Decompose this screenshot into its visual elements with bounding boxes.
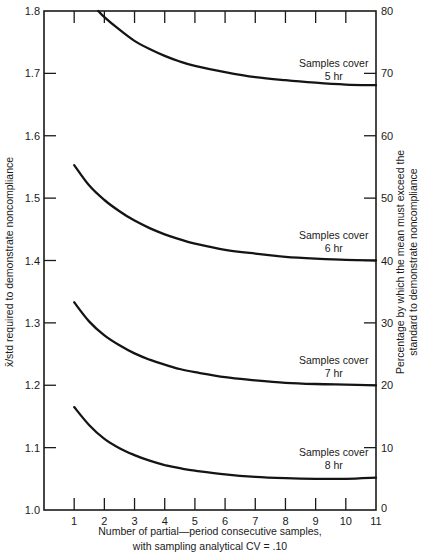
curve-labels: Samples cover5 hrSamples cover6 hrSample… xyxy=(299,57,369,471)
curve-label: Samples cover xyxy=(299,446,369,458)
curve-label-hours: 8 hr xyxy=(325,459,344,471)
curve-label-hours: 5 hr xyxy=(325,70,344,82)
y-right-tick-label: 60 xyxy=(381,130,393,142)
plot-frame xyxy=(44,11,376,510)
y-axis-right-label-line2: standard to demonstrate noncompliance xyxy=(407,168,419,356)
curve-label: Samples cover xyxy=(299,354,369,366)
y-right-tick-label: 10 xyxy=(381,442,393,454)
y-tick-label: 1.0 xyxy=(25,504,40,516)
y-right-tick-label: 80 xyxy=(381,5,393,17)
y-right-tick-label: 0 xyxy=(381,502,387,514)
y-right-tick-label: 20 xyxy=(381,379,393,391)
y-tick-label: 1.3 xyxy=(25,317,40,329)
y-tick-label: 1.8 xyxy=(25,5,40,17)
y-tick-label: 1.5 xyxy=(25,192,40,204)
y-right-tick-label: 50 xyxy=(381,192,393,204)
x-tick-label: 1 xyxy=(71,515,77,527)
curve-label-hours: 7 hr xyxy=(325,367,344,379)
y-tick-label: 1.4 xyxy=(25,255,40,267)
x-axis-label: Number of partial—period consecutive sam… xyxy=(98,525,322,537)
y-axis-left-ticks: 1.01.11.21.31.41.51.61.71.8 xyxy=(25,5,56,516)
curve-label: Samples cover xyxy=(299,57,369,69)
y-right-tick-label: 40 xyxy=(381,255,393,267)
y-axis-left-label: x̄/std required to demonstrate noncompli… xyxy=(3,157,15,367)
y-right-tick-label: 70 xyxy=(381,67,393,79)
x-tick-label: 11 xyxy=(370,515,381,527)
y-tick-label: 1.7 xyxy=(25,67,40,79)
y-tick-label: 1.1 xyxy=(25,442,40,454)
curve-label-hours: 6 hr xyxy=(325,242,344,254)
y-right-tick-label: 30 xyxy=(381,317,393,329)
chart: 1234567891011 1.01.11.21.31.41.51.61.71.… xyxy=(0,0,427,560)
y-axis-right-label: Percentage by which the mean must exceed… xyxy=(394,150,406,374)
curve-label: Samples cover xyxy=(299,229,369,241)
y-tick-label: 1.6 xyxy=(25,130,40,142)
y-tick-label: 1.2 xyxy=(25,379,40,391)
x-axis-label-line2: with sampling analytical CV = .10 xyxy=(132,540,288,552)
x-tick-label: 10 xyxy=(340,515,352,527)
